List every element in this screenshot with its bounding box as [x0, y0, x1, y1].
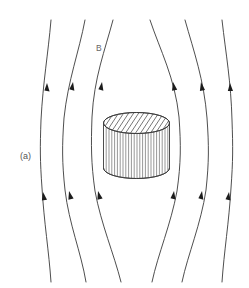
- field-diagram-figure: B (a): [0, 0, 249, 288]
- field-diagram-canvas: B (a): [0, 0, 249, 288]
- figure-caption-label: (a): [20, 151, 31, 161]
- field-label-b: B: [96, 43, 102, 53]
